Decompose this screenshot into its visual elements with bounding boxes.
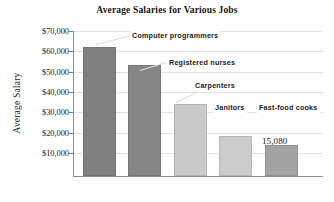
- callout-fast-food-cooks: Fast-food cooks: [256, 103, 321, 113]
- callout-janitors: Janitors: [212, 103, 248, 113]
- y-tick-label: $60,000: [42, 46, 69, 56]
- y-axis-tick-labels: $70,000 $60,000 $50,000 $40,000 $30,000 …: [12, 31, 69, 177]
- y-tick-label: $30,000: [42, 107, 69, 117]
- callout-registered-nurses: Registered nurses: [166, 58, 238, 68]
- chart-title: Average Salaries for Various Jobs: [0, 5, 334, 15]
- bar-chart: Average Salaries for Various Jobs Averag…: [0, 0, 334, 202]
- y-tick-label: $70,000: [42, 26, 69, 36]
- y-tick-label: $50,000: [42, 67, 69, 77]
- bar-registered-nurses: [128, 65, 161, 176]
- bar-janitors: [219, 136, 252, 176]
- value-label-fast-food-cooks: 15,080: [262, 136, 287, 146]
- callout-computer-programmers: Computer programmers: [129, 31, 221, 41]
- callout-carpenters: Carpenters: [192, 81, 238, 91]
- bar-computer-programmers: [83, 47, 116, 176]
- x-axis-line: [73, 176, 323, 177]
- y-tick-label: $40,000: [42, 87, 69, 97]
- bar-carpenters: [174, 104, 207, 176]
- bar-fast-food-cooks: [265, 145, 298, 176]
- y-tick-label: $10,000: [42, 148, 69, 158]
- y-tick-label: $20,000: [42, 128, 69, 138]
- y-axis-line: [73, 31, 74, 177]
